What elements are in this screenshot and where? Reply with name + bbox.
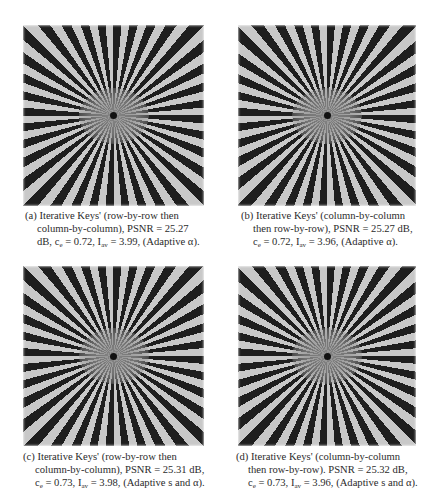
siemens-star-image-b (238, 25, 416, 206)
caption-d-line3: ce = 0.73, Iav = 3.96, (Adaptive s and α… (236, 476, 418, 489)
siemens-star-image-c (23, 266, 204, 446)
caption-d: (d) Iterative Keys' (column-by-column th… (236, 450, 418, 490)
caption-c-line2: column-by-column), PSNR = 25.31 dB, (23, 463, 205, 476)
caption-a-line3: dB, ce = 0.72, Iav = 3.99, (Adaptive α). (25, 235, 200, 248)
siemens-star-image-a (23, 25, 204, 206)
caption-d-line2: then row-by-row). PSNR = 25.32 dB, (236, 463, 418, 476)
caption-d-line1: (d) Iterative Keys' (column-by-column (236, 450, 418, 463)
caption-c: (c) Iterative Keys' (row-by-row then col… (23, 450, 205, 490)
caption-c-line1: (c) Iterative Keys' (row-by-row then (23, 450, 205, 463)
caption-a-line2: column-by-column), PSNR = 25.27 (25, 222, 200, 235)
caption-a: (a) Iterative Keys' (row-by-row then col… (25, 209, 200, 249)
caption-b-line2: then row-by-row), PSNR = 25.27 dB, (241, 222, 413, 235)
caption-b-line1: (b) Iterative Keys' (column-by-column (241, 209, 413, 222)
caption-c-line3: ce = 0.73, Iav = 3.98, (Adaptive s and α… (23, 476, 205, 489)
caption-b-line3: ce = 0.72, Iav = 3.96, (Adaptive α). (241, 235, 413, 248)
caption-b: (b) Iterative Keys' (column-by-column th… (241, 209, 413, 249)
siemens-star-image-d (238, 266, 416, 446)
caption-a-line1: (a) Iterative Keys' (row-by-row then (25, 209, 200, 222)
